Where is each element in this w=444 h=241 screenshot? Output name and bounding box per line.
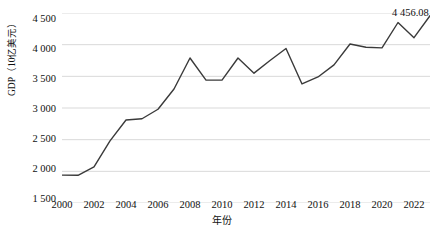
x-tick-label: 2016 [303, 200, 333, 211]
x-tick-label: 2022 [399, 200, 429, 211]
x-tick-label: 2004 [111, 200, 141, 211]
plot-area [62, 13, 430, 203]
x-tick-label: 2008 [175, 200, 205, 211]
end-value-label: 4 456.08 [392, 8, 429, 19]
x-tick-label: 2014 [271, 200, 301, 211]
gdp-series-line [62, 16, 430, 175]
gridlines [62, 13, 430, 203]
y-tick-label: 4 000 [10, 44, 56, 55]
y-tick-label: 2 500 [10, 134, 56, 145]
y-tick-label: 3 000 [10, 104, 56, 115]
y-tick-label: 3 500 [10, 74, 56, 85]
y-tick-label: 2 000 [10, 164, 56, 175]
x-tick-label: 2010 [207, 200, 237, 211]
y-tick-label: 4 500 [10, 14, 56, 25]
gdp-line-chart: GDP（10亿美元） 4 500 4 000 3 500 3 000 2 500… [0, 0, 444, 241]
x-tick-label: 2018 [335, 200, 365, 211]
x-tick-label: 2020 [367, 200, 397, 211]
x-tick-label: 2002 [79, 200, 109, 211]
x-tick-label: 2012 [239, 200, 269, 211]
x-axis-tick-labels: 2000200220042006200820102012201420162018… [62, 200, 430, 216]
x-tick-label: 2006 [143, 200, 173, 211]
x-axis-title: 年份 [0, 216, 444, 226]
x-tick-label: 2000 [47, 200, 77, 211]
